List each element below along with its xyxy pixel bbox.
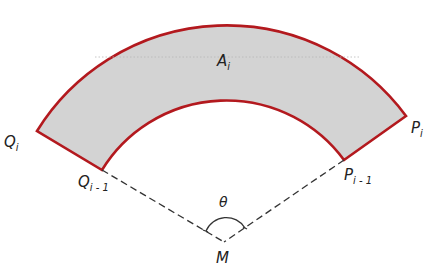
label-theta: θ	[219, 194, 228, 210]
label-q-i: Qi	[4, 133, 19, 153]
label-p-i: Pi	[411, 119, 423, 139]
angle-arc-icon	[206, 218, 245, 231]
annular-sector-diagram: Ai Qi Qi - 1 Pi Pi - 1 θ M	[0, 0, 442, 276]
annular-sector-region	[37, 25, 406, 170]
angle-tick-left	[203, 230, 208, 232]
label-p-i-minus-1: Pi - 1	[344, 166, 372, 186]
label-center-m: M	[216, 249, 229, 267]
label-q-i-minus-1: Qi - 1	[78, 173, 109, 193]
radius-line-right	[224, 160, 344, 242]
